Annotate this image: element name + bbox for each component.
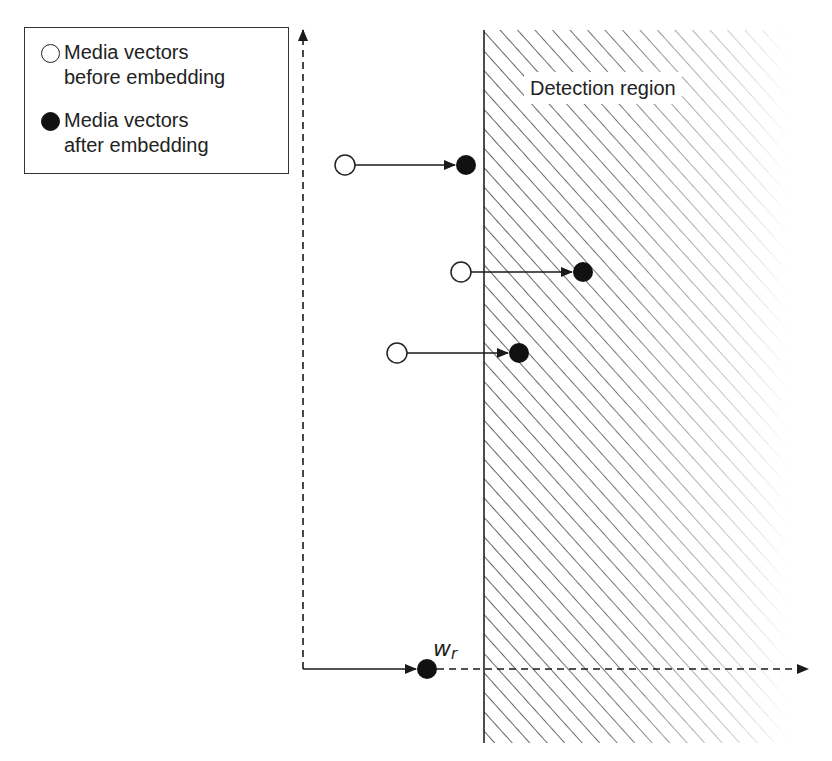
vector-after-embedding <box>573 262 593 282</box>
legend-item-before: Media vectors before embedding <box>41 40 225 90</box>
detection-region <box>484 30 790 743</box>
detection-region-label: Detection region <box>524 72 682 104</box>
vector-pair-1 <box>335 155 476 175</box>
vector-after-embedding <box>509 343 529 363</box>
legend-after-line1: Media vectors <box>64 108 209 133</box>
vector-before-embedding <box>387 343 407 363</box>
legend-before-line1: Media vectors <box>64 40 225 65</box>
legend-item-after: Media vectors after embedding <box>41 108 209 158</box>
vector-before-embedding <box>335 155 355 175</box>
reference-vector-label: wr <box>433 636 457 663</box>
legend-after-line2: after embedding <box>64 133 209 158</box>
open-circle-icon <box>41 44 60 63</box>
detection-region-hatch <box>484 30 790 743</box>
vector-after-embedding <box>456 155 476 175</box>
vector-before-embedding <box>451 262 471 282</box>
legend-before-line2: before embedding <box>64 65 225 90</box>
legend: Media vectors before embedding Media vec… <box>24 27 289 174</box>
reference-label-sub: r <box>451 645 457 663</box>
filled-circle-icon <box>41 112 60 131</box>
reference-label-main: w <box>433 636 451 661</box>
